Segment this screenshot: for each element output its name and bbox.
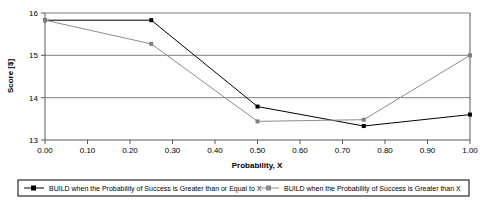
x-tick-label: 0.30 <box>165 146 181 155</box>
x-axis-ticks <box>45 140 470 144</box>
data-point-marker <box>149 18 153 22</box>
x-axis-title: Probability, X <box>232 161 283 170</box>
y-tick-label: 16 <box>29 9 38 18</box>
x-tick-label: 1.00 <box>462 146 478 155</box>
legend-entry-greater-than-or-equal[interactable]: BUILD when the Probability of Success is… <box>24 185 262 193</box>
x-tick-label: 0.90 <box>420 146 436 155</box>
data-point-marker <box>362 118 366 122</box>
y-axis-ticks <box>41 13 45 140</box>
x-tick-label: 0.70 <box>335 146 351 155</box>
x-tick-label: 0.00 <box>37 146 53 155</box>
x-tick-label: 0.20 <box>122 146 138 155</box>
x-tick-label: 0.10 <box>80 146 96 155</box>
y-tick-label: 14 <box>29 94 38 103</box>
legend-label: BUILD when the Probability of Success is… <box>284 185 461 193</box>
chart-legend: BUILD when the Probability of Success is… <box>18 180 469 196</box>
data-point-marker <box>43 18 47 22</box>
legend-square-marker-icon <box>31 186 36 191</box>
x-tick-label: 0.40 <box>207 146 223 155</box>
data-point-marker <box>256 119 260 123</box>
x-tick-label: 0.60 <box>292 146 308 155</box>
x-axis-tick-labels: 0.00 0.10 0.20 0.30 0.40 0.50 0.60 0.70 … <box>37 146 478 155</box>
data-point-marker <box>468 53 472 57</box>
legend-entry-greater-than[interactable]: BUILD when the Probability of Success is… <box>259 185 461 193</box>
chart-figure: 16 15 14 13 0.00 0.10 0.20 0.30 0.40 <box>0 0 487 204</box>
y-axis-title: Score [$] <box>6 59 15 94</box>
y-axis-tick-labels: 16 15 14 13 <box>29 9 38 145</box>
legend-square-marker-icon <box>266 186 271 191</box>
data-point-marker <box>468 113 472 117</box>
y-tick-label: 15 <box>29 51 38 60</box>
x-tick-label: 0.50 <box>250 146 266 155</box>
y-tick-label: 13 <box>29 136 38 145</box>
data-point-marker <box>362 124 366 128</box>
data-point-marker <box>256 105 260 109</box>
legend-label: BUILD when the Probability of Success is… <box>49 185 262 193</box>
chart-svg: 16 15 14 13 0.00 0.10 0.20 0.30 0.40 <box>0 0 487 204</box>
data-point-marker <box>149 42 153 46</box>
x-tick-label: 0.80 <box>377 146 393 155</box>
